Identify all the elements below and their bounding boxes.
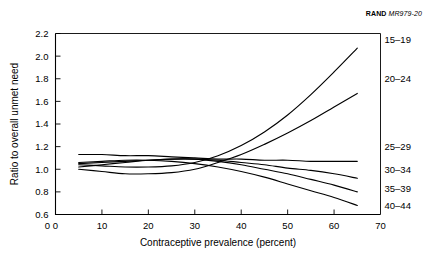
x-tick-label: 10 (97, 220, 108, 231)
source-brand: RAND (366, 10, 387, 17)
x-tick-label: 70 (375, 220, 386, 231)
origin-label: 0 (45, 220, 50, 231)
y-tick-label: 2.0 (35, 51, 48, 62)
x-tick-label: 50 (282, 220, 293, 231)
y-axis-title: Ratio to overall unmet need (9, 63, 20, 185)
axis-lines (56, 34, 381, 215)
series-label-25-29: 25–29 (385, 141, 411, 152)
x-tick-label: 60 (329, 220, 340, 231)
series-label-20-24: 20–24 (385, 73, 411, 84)
axes: 0.60.81.01.21.41.61.82.02.20102030405060… (35, 28, 386, 231)
y-tick-label: 1.2 (35, 141, 48, 152)
source-code: MR979-20 (389, 10, 422, 17)
plot-frame (56, 34, 381, 215)
x-axis-title: Contraceptive prevalence (percent) (140, 237, 296, 248)
source-note: RAND MR979-20 (366, 10, 422, 17)
y-tick-label: 0.6 (35, 209, 48, 220)
y-tick-label: 0.8 (35, 186, 48, 197)
chart-figure: RAND MR979-20 0.60.81.01.21.41.61.82.02.… (0, 0, 430, 259)
y-tick-label: 1.6 (35, 96, 48, 107)
y-tick-label: 1.8 (35, 73, 48, 84)
series-label-15-19: 15–19 (385, 34, 411, 45)
series-line-15-19 (79, 48, 358, 167)
x-tick-label: 0 (53, 220, 58, 231)
x-tick-label: 30 (189, 220, 200, 231)
series-label-35-39: 35–39 (385, 183, 411, 194)
series-labels: 15–1920–2425–2930–3435–3940–44 (385, 34, 411, 211)
y-tick-label: 2.2 (35, 28, 48, 39)
line-chart: 0.60.81.01.21.41.61.82.02.20102030405060… (0, 0, 430, 259)
y-tick-label: 1.4 (35, 118, 48, 129)
x-tick-label: 40 (236, 220, 247, 231)
series-label-30-34: 30–34 (385, 164, 411, 175)
x-tick-label: 20 (143, 220, 154, 231)
series-lines (79, 48, 358, 205)
series-line-35-39 (79, 159, 358, 192)
y-tick-label: 1.0 (35, 164, 48, 175)
series-label-40-44: 40–44 (385, 200, 411, 211)
